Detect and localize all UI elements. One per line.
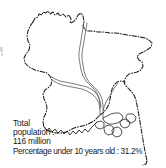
caption-line-population-value: 116 million [13,137,165,146]
river-network [50,22,118,118]
bangladesh-map-figure: Total population : 116 million Percentag… [0,0,166,168]
border-path-west-south [24,22,100,133]
border-path-southeast-tip [143,161,147,165]
river-padma [50,76,101,107]
river-jamuna-bank [82,23,103,111]
caption: Total population : 116 million Percentag… [13,119,165,156]
caption-line-under-ten: Percentage under 10 years old : 31.2% [13,147,165,156]
river-jamuna [79,22,100,115]
